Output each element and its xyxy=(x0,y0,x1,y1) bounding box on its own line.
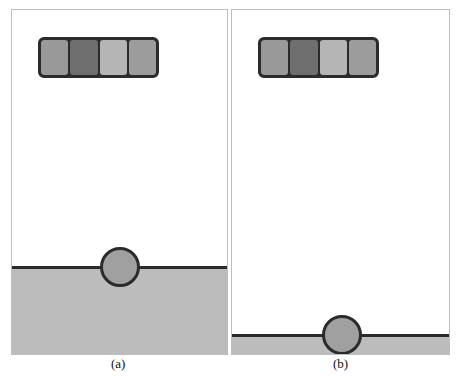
bar-segment xyxy=(261,40,288,75)
bar-segment xyxy=(290,40,317,75)
bar-segment xyxy=(349,40,376,75)
panel-a xyxy=(11,9,228,355)
ball xyxy=(322,315,362,355)
bar-segment xyxy=(100,40,127,75)
bar-segment xyxy=(41,40,68,75)
bar-segment xyxy=(70,40,97,75)
caption-a: (a) xyxy=(111,356,125,372)
segmented-bar xyxy=(258,37,379,78)
panel-b xyxy=(231,9,450,355)
bar-segment xyxy=(320,40,347,75)
bar-segment xyxy=(129,40,156,75)
ball xyxy=(100,247,140,287)
caption-b: (b) xyxy=(333,356,348,372)
segmented-bar xyxy=(38,37,159,78)
